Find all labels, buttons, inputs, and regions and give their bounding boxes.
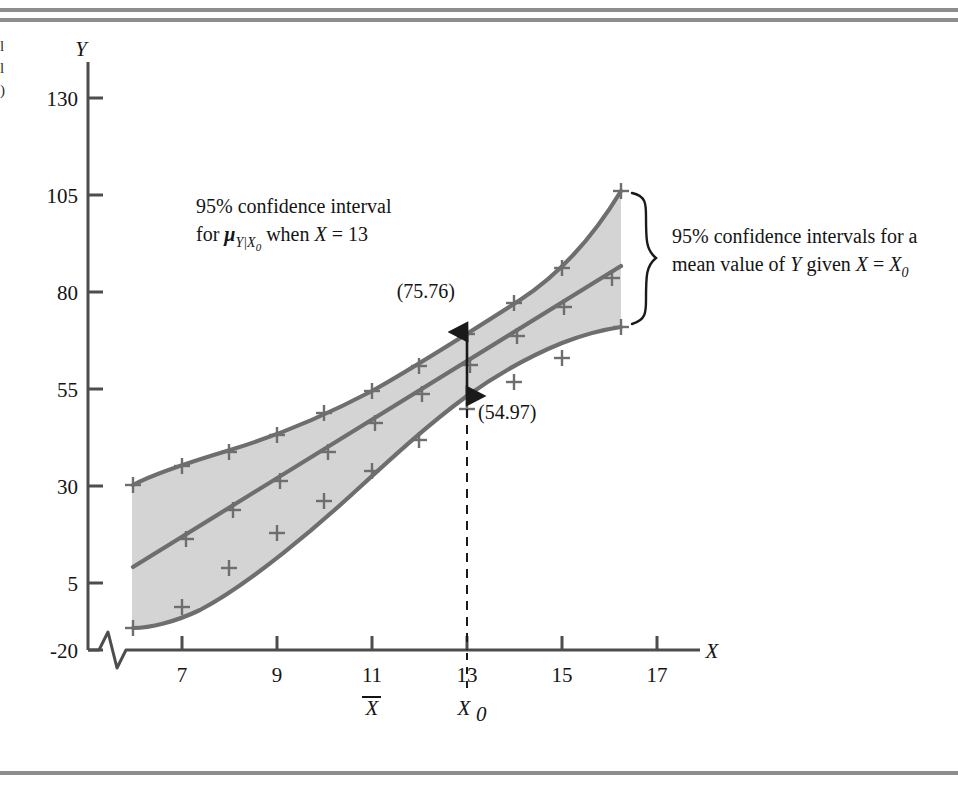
x-tick-label-17: 17 <box>647 663 668 687</box>
x-mean-symbol: X <box>365 696 380 720</box>
right-brace <box>632 193 656 324</box>
y-tick-label-55: 55 <box>57 378 78 402</box>
figure-root: l l ) <box>0 0 958 787</box>
x-tick-label-9: 9 <box>272 663 283 687</box>
x-tick-label-15: 15 <box>552 663 573 687</box>
left-annotation: 95% confidence interval for μY|X0 when X… <box>196 195 392 253</box>
x-mean-marker: X <box>362 696 381 720</box>
right-anno-x0: X <box>888 253 902 275</box>
y-axis-ticks <box>88 98 103 650</box>
right-anno-x0-sub: 0 <box>902 265 909 280</box>
y-tick-label-105: 105 <box>47 184 79 208</box>
x-axis-title: X <box>705 639 720 663</box>
right-annotation-line1: 95% confidence intervals for a <box>672 225 918 247</box>
left-annotation-line2: for μY|X0 when X = 13 <box>196 223 368 253</box>
y-tick-label-minus20: -20 <box>50 639 78 663</box>
y-tick-label-5: 5 <box>68 572 79 596</box>
y-axis-title: Y <box>75 37 89 61</box>
x0-marker: X 0 <box>457 696 487 726</box>
left-anno-tail: = 13 <box>327 223 368 245</box>
confidence-band-chart: 130 105 80 55 30 5 -20 Y 7 9 11 13 15 17… <box>0 0 958 787</box>
right-anno-mid: given <box>801 253 855 276</box>
lower-limit-value-label: (54.97) <box>478 401 536 424</box>
left-annotation-line1: 95% confidence interval <box>196 195 392 217</box>
right-annotation: 95% confidence intervals for a mean valu… <box>672 225 918 280</box>
right-anno-pre: mean value of <box>672 253 790 275</box>
upper-limit-value-label: (75.76) <box>397 280 455 303</box>
confidence-band-fill <box>133 191 621 628</box>
y-tick-label-30: 30 <box>57 475 78 499</box>
x-axis-ticks <box>182 636 657 650</box>
left-anno-for: for <box>196 223 224 245</box>
left-anno-when: when <box>261 223 314 245</box>
right-anno-x: X <box>855 253 869 275</box>
right-anno-eq: = <box>868 253 889 275</box>
left-anno-mu-sub: Y|X <box>235 235 256 250</box>
regression-line <box>133 266 621 567</box>
left-anno-var: X <box>313 223 327 245</box>
x0-symbol-base: X <box>457 696 472 720</box>
left-anno-mu: μ <box>223 223 235 246</box>
x0-symbol-subscript: 0 <box>476 702 487 726</box>
y-tick-label-80: 80 <box>57 281 78 305</box>
y-tick-label-130: 130 <box>47 87 79 111</box>
x-tick-label-11: 11 <box>362 663 382 687</box>
x-tick-label-7: 7 <box>177 663 188 687</box>
right-annotation-line2: mean value of Y given X = X0 <box>672 253 909 280</box>
